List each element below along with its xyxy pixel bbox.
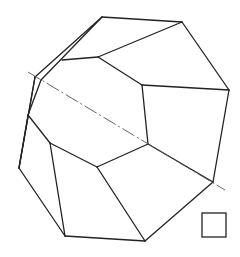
edge	[50, 143, 65, 236]
edge	[28, 115, 50, 143]
edge	[213, 90, 229, 182]
edge	[142, 85, 148, 144]
edge	[145, 182, 213, 241]
edge	[182, 22, 229, 90]
polyhedron-net-diagram	[0, 0, 240, 257]
edge	[35, 17, 102, 77]
edge	[97, 167, 145, 241]
edge	[19, 115, 28, 168]
edge	[50, 143, 97, 167]
edge	[28, 80, 41, 115]
edge	[97, 144, 148, 167]
edge	[142, 85, 229, 90]
edge	[65, 236, 145, 241]
edge	[62, 57, 98, 60]
small-square	[202, 213, 226, 237]
edge	[102, 17, 182, 22]
edge	[98, 57, 142, 85]
edge	[98, 22, 182, 57]
edge	[41, 17, 102, 80]
edge	[19, 168, 65, 236]
